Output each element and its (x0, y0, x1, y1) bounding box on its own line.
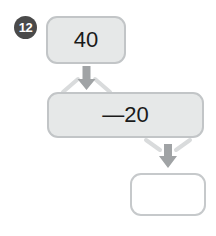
flow-node-operation-label: —20 (102, 102, 148, 128)
worksheet-canvas: 12 40 —20 (0, 0, 216, 236)
flow-node-input: 40 (46, 16, 126, 64)
problem-number-badge: 12 (14, 16, 37, 39)
arrow-operation-to-result (146, 140, 190, 168)
arrow-input-to-operation (63, 66, 110, 92)
flow-node-answer-blank[interactable] (130, 173, 206, 216)
flow-node-operation: —20 (47, 92, 204, 138)
flow-node-input-label: 40 (74, 27, 98, 53)
